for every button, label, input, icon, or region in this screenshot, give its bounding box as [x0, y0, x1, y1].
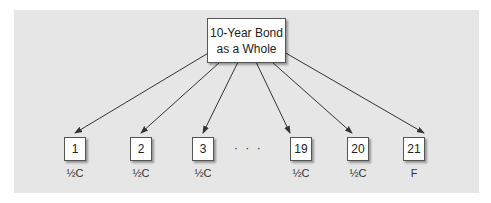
leaf-label-19: ½C	[286, 167, 316, 179]
leaf-label-3: ½C	[188, 167, 218, 179]
root-node-bond-as-whole: 10-Year Bond as a Whole	[207, 18, 286, 63]
leaf-node-20: 20	[347, 137, 369, 161]
leaf-label-21: F	[399, 167, 429, 179]
leaf-node-19: 19	[290, 137, 312, 161]
leaf-label-1: ½C	[60, 167, 90, 179]
leaf-node-2: 2	[130, 137, 152, 161]
ellipsis: · · ·	[234, 141, 263, 155]
root-label-line1: 10-Year Bond	[210, 25, 283, 41]
root-label-line2: as a Whole	[216, 41, 276, 57]
leaf-label-20: ½C	[343, 167, 373, 179]
leaf-node-1: 1	[64, 137, 86, 161]
leaf-label-2: ½C	[126, 167, 156, 179]
leaf-node-3: 3	[192, 137, 214, 161]
leaf-node-21: 21	[403, 137, 425, 161]
